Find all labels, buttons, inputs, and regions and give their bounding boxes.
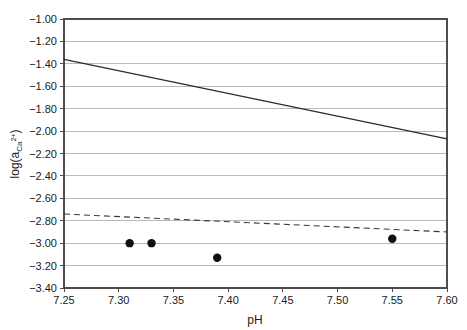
x-axis-title: pH <box>247 313 262 327</box>
y-axis-title-prefix: log(a <box>8 151 22 178</box>
data-point-marker <box>125 239 133 247</box>
x-tick-label: 7.55 <box>382 294 403 306</box>
chart-background <box>0 0 467 330</box>
y-axis-title-suffix: ) <box>8 130 22 134</box>
x-tick-label: 7.35 <box>163 294 184 306</box>
data-point-marker <box>388 234 396 242</box>
x-tick-label: 7.30 <box>108 294 129 306</box>
chart-canvas: −1.00−1.20−1.40−1.60−1.80−2.00−2.20−2.40… <box>0 0 467 330</box>
y-tick-label: −1.40 <box>29 58 57 70</box>
y-tick-label: −1.00 <box>29 13 57 25</box>
y-axis-title-superscript: 2+ <box>10 134 17 142</box>
y-tick-label: −3.20 <box>29 260 57 272</box>
y-tick-label: −1.20 <box>29 35 57 47</box>
x-tick-label: 7.50 <box>327 294 348 306</box>
y-tick-label: −2.60 <box>29 192 57 204</box>
chart-container: −1.00−1.20−1.40−1.60−1.80−2.00−2.20−2.40… <box>0 0 467 330</box>
data-point-marker <box>147 239 155 247</box>
x-tick-label: 7.45 <box>272 294 293 306</box>
y-tick-label: −2.00 <box>29 125 57 137</box>
y-tick-label: −2.80 <box>29 215 57 227</box>
y-tick-label: −3.40 <box>29 282 57 294</box>
y-tick-label: −2.20 <box>29 148 57 160</box>
x-tick-label: 7.25 <box>53 294 74 306</box>
y-tick-label: −1.60 <box>29 80 57 92</box>
y-tick-label: −1.80 <box>29 103 57 115</box>
x-tick-label: 7.40 <box>217 294 238 306</box>
y-tick-label: −2.40 <box>29 170 57 182</box>
x-tick-label: 7.60 <box>436 294 457 306</box>
y-axis-title-subscript: Ca <box>15 141 24 152</box>
data-point-marker <box>213 254 221 262</box>
y-tick-label: −3.00 <box>29 237 57 249</box>
